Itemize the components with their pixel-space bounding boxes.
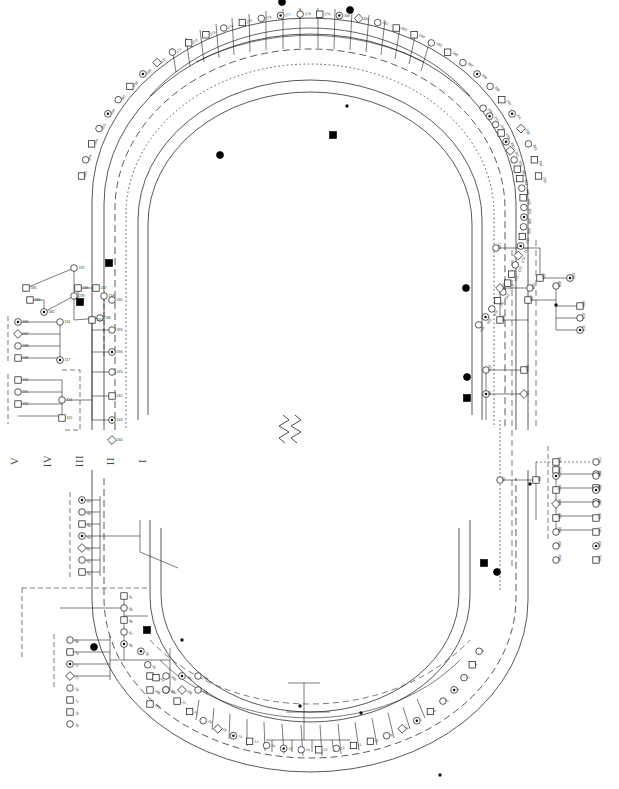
pedigree-symbol — [428, 40, 435, 47]
individual-id-label: 559 — [598, 513, 602, 519]
pedigree-symbol — [15, 319, 22, 326]
individual-id-label: 309 — [527, 228, 531, 234]
pedigree-symbol — [519, 185, 526, 192]
affected-individual-symbol — [464, 395, 471, 402]
individual-id-label: 610 — [582, 313, 586, 319]
pedigree-symbol — [23, 285, 29, 291]
pedigree-symbol — [57, 357, 64, 364]
individual-id-label: 584 — [35, 298, 41, 302]
individual-id-label: 84 — [558, 467, 562, 471]
pedigree-symbol — [93, 285, 99, 291]
individual-id-label: 81 — [526, 391, 530, 395]
pedigree-symbol — [480, 105, 487, 112]
individual-id-label: 14 — [306, 748, 310, 752]
individual-id-label: 611 — [582, 325, 586, 331]
affected-individual-symbol — [463, 285, 470, 292]
individual-id-label: 238 — [105, 316, 111, 320]
pedigree-symbol — [41, 309, 48, 316]
pedigree-symbol — [101, 293, 108, 300]
individual-id-label: 246 — [83, 286, 89, 290]
affected-individual-symbol — [464, 374, 471, 381]
pedigree-symbol — [519, 233, 525, 239]
pedigree-symbol — [67, 637, 74, 644]
pedigree-symbol — [514, 166, 520, 172]
pedigree-symbol — [67, 685, 74, 692]
pedigree-symbol — [195, 673, 202, 680]
individual-id-label: 565 — [598, 555, 602, 561]
individual-id-label: 607 — [530, 295, 534, 301]
pedigree-symbol — [374, 19, 381, 26]
pedigree-symbol — [520, 224, 527, 231]
pedigree-symbol — [521, 204, 528, 211]
individual-id-label: 115 — [67, 416, 73, 420]
pedigree-symbol — [333, 745, 340, 752]
pedigree-symbol — [163, 687, 170, 694]
individual-id-label: 553 — [598, 471, 602, 477]
individual-id-label: 562 — [558, 541, 562, 547]
pedigree-symbol — [474, 71, 481, 78]
individual-id-label: 117 — [65, 358, 71, 362]
individual-id-label: 601 — [498, 243, 502, 249]
individual-id-label: 608 — [558, 281, 562, 287]
individual-id-label: 245 — [117, 298, 123, 302]
individual-id-label: 80 — [488, 391, 492, 395]
individual-id-label: 116 — [65, 320, 71, 324]
individual-id-label: 307 — [527, 208, 531, 214]
individual-id-label: 552 — [558, 471, 562, 477]
individual-id-label: 612 — [488, 365, 492, 371]
individual-id-label: 550 — [558, 457, 562, 463]
pedigree-symbol — [121, 641, 128, 648]
individual-id-label: 592 — [23, 402, 29, 406]
pedigree-symbol — [71, 265, 78, 272]
pedigree-symbol — [517, 175, 523, 181]
individual-id-label: 555 — [598, 485, 602, 491]
pedigree-symbol — [258, 15, 265, 22]
individual-id-label: 583 — [31, 286, 37, 290]
individual-id-label: 605 — [532, 283, 536, 289]
affected-individual-symbol — [217, 152, 224, 159]
affected-individual-symbol — [359, 711, 362, 714]
pedigree-symbol — [174, 698, 180, 704]
affected-individual-symbol — [438, 773, 441, 776]
individual-id-label: 602 — [542, 273, 546, 279]
pedigree-symbol — [109, 349, 116, 356]
pedigree-symbol — [79, 509, 86, 516]
pedigree-symbol — [316, 747, 322, 753]
individual-id-label: 239 — [79, 294, 85, 298]
pedigree-symbol — [263, 742, 270, 749]
pedigree-symbol — [509, 110, 516, 117]
pedigree-symbol — [121, 617, 127, 623]
individual-id-label: 594 — [117, 350, 123, 354]
affected-individual-symbol — [330, 132, 337, 139]
affected-individual-symbol — [528, 482, 531, 485]
pedigree-symbol — [27, 297, 33, 303]
individual-id-label: 554 — [558, 485, 562, 491]
pedigree-symbol — [509, 271, 515, 277]
individual-id-label: 237 — [79, 266, 85, 270]
individual-id-label: 280 — [344, 14, 350, 19]
affected-individual-symbol — [554, 303, 557, 306]
pedigree-symbol — [144, 662, 151, 669]
pedigree-symbol — [15, 389, 22, 396]
individual-id-label: 563 — [598, 541, 602, 547]
individual-id-label: 606 — [502, 315, 506, 321]
individual-id-label: 560 — [558, 527, 562, 533]
pedigree-symbol — [121, 593, 127, 599]
individual-id-label: 589 — [23, 356, 29, 360]
affected-individual-symbol — [144, 627, 151, 634]
individual-id-label: 278 — [305, 12, 311, 16]
pedigree-symbol — [393, 25, 399, 31]
pedigree-symbol — [512, 262, 519, 269]
pedigree-symbol — [521, 214, 528, 221]
pedigree-symbol — [79, 569, 85, 575]
individual-id-label: 588 — [23, 344, 29, 348]
pedigree-symbol — [411, 32, 417, 38]
affected-individual-symbol — [279, 0, 286, 6]
pedigree-symbol — [367, 738, 373, 744]
pedigree-symbol — [492, 121, 499, 128]
pedigree-symbol — [67, 709, 73, 715]
affected-individual-symbol — [106, 260, 113, 267]
individual-id-label: 587 — [23, 332, 29, 336]
pedigree-symbol — [15, 355, 21, 361]
pedigree-symbol — [79, 557, 86, 564]
